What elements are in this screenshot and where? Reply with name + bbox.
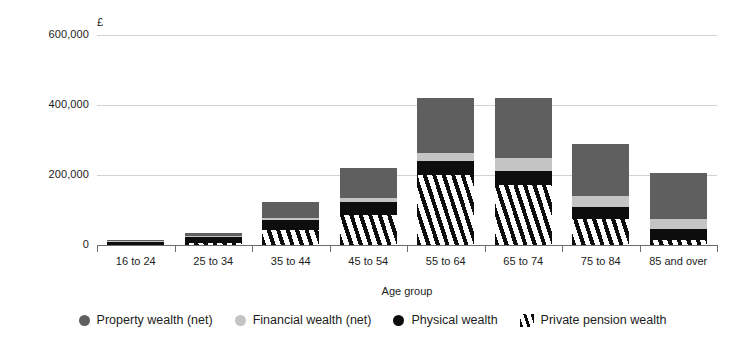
x-tick [175,245,176,252]
bar-group [185,28,242,245]
x-tick-label: 85 and over [640,255,718,267]
bar-segment [650,229,707,240]
bar-segment [417,175,474,245]
bar-segment [340,202,397,215]
x-tick-label: 45 to 54 [330,255,408,267]
bar-segment [262,202,319,218]
bar-segment [262,230,319,245]
legend-item[interactable]: Financial wealth (net) [235,313,372,327]
bar-segment [572,196,629,207]
bar-group [650,28,707,245]
x-tick [485,245,486,252]
bar-segment [417,98,474,153]
x-tick-label: 75 to 84 [562,255,640,267]
bar-segment [495,158,552,171]
bar-segment [495,185,552,245]
bar-segment [650,219,707,229]
legend-item[interactable]: Property wealth (net) [79,313,213,327]
bar-segment [185,233,242,236]
bar-group [417,28,474,245]
legend-label: Property wealth (net) [97,313,213,327]
legend-dot-icon [235,315,246,326]
bar-group [340,28,397,245]
bar-segment [417,153,474,161]
x-tick [97,245,98,252]
legend-dot-icon [79,315,90,326]
bar-group [107,28,164,245]
legend-label: Financial wealth (net) [253,313,372,327]
bar-segment [107,240,164,241]
bar-segment [262,218,319,220]
bar-segment [572,144,629,196]
x-tick-label: 35 to 44 [252,255,330,267]
bar-segment [495,171,552,185]
bar-segment [495,98,552,158]
x-axis-title: Age group [97,285,717,297]
bar-segment [650,173,707,219]
x-tick [562,245,563,252]
legend-item[interactable]: Private pension wealth [520,313,667,327]
bar-segment [417,161,474,175]
bar-segment [572,219,629,245]
x-tick-label: 25 to 34 [175,255,253,267]
y-axis-unit-label: £ [97,16,103,28]
bars-layer [97,28,717,245]
bar-segment [340,198,397,202]
bar-segment [340,168,397,198]
bar-group [262,28,319,245]
bar-segment [340,215,397,245]
chart-legend: Property wealth (net)Financial wealth (n… [0,313,745,327]
y-tick-label: 200,000 [23,168,89,180]
legend-hatch-icon [520,314,534,327]
legend-label: Physical wealth [411,313,497,327]
x-tick [407,245,408,252]
bar-segment [107,241,164,242]
bar-group [572,28,629,245]
bar-segment [185,236,242,237]
y-tick-label: 0 [23,238,89,250]
x-tick-label: 55 to 64 [407,255,485,267]
legend-dot-icon [393,315,404,326]
bar-segment [572,207,629,219]
wealth-by-age-bar-chart: £ 0200,000400,000600,000 16 to 2425 to 3… [0,0,745,343]
legend-label: Private pension wealth [541,313,667,327]
y-tick-label: 600,000 [23,28,89,40]
bar-segment [262,220,319,230]
x-tick-label: 16 to 24 [97,255,175,267]
x-tick [252,245,253,252]
x-tick [330,245,331,252]
plot-area [97,28,717,245]
bar-group [495,28,552,245]
y-tick-label: 400,000 [23,98,89,110]
x-tick [717,245,718,252]
bar-segment [185,237,242,243]
x-tick-label: 65 to 74 [485,255,563,267]
legend-item[interactable]: Physical wealth [393,313,497,327]
x-tick [640,245,641,252]
